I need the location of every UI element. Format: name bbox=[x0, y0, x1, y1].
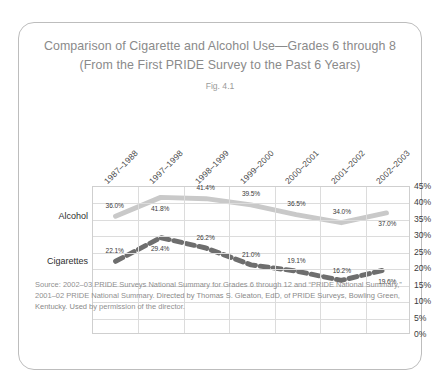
source-line-4: by permission of the director. bbox=[89, 302, 185, 311]
y-axis-tick-label: 45% bbox=[414, 181, 431, 191]
data-point-label: 22.1% bbox=[106, 247, 124, 254]
x-axis-tick-label: 1999–2000 bbox=[238, 148, 276, 186]
data-point-label: 16.2% bbox=[333, 266, 351, 273]
x-axis-labels: 1987–19881997–19981998–19991999–20002000… bbox=[74, 118, 410, 186]
data-point-label: 37.0% bbox=[378, 220, 396, 227]
data-point-label: 36.0% bbox=[106, 201, 124, 208]
series-label-alcohol: Alcohol bbox=[58, 211, 88, 221]
y-axis-tick-label: 5% bbox=[414, 313, 426, 323]
x-axis-tick-label: 1987–1988 bbox=[102, 148, 140, 186]
data-point-label: 41.4% bbox=[196, 183, 214, 190]
title-block: Comparison of Cigarette and Alcohol Use—… bbox=[19, 37, 421, 94]
data-point-label: 36.5% bbox=[287, 199, 305, 206]
gridline-horizontal bbox=[93, 203, 409, 204]
gridline-horizontal bbox=[93, 319, 409, 320]
x-axis-tick-label: 1997–1998 bbox=[147, 148, 185, 186]
source-line-1: Source: 2002–03 PRIDE Surveys National S… bbox=[35, 280, 334, 289]
y-axis-tick-label: 35% bbox=[414, 214, 431, 224]
chart-title-line-1: Comparison of Cigarette and Alcohol Use—… bbox=[19, 37, 421, 56]
figure-label: Fig. 4.1 bbox=[19, 79, 421, 94]
data-point-label: 39.5% bbox=[242, 190, 260, 197]
y-axis-tick-label: 25% bbox=[414, 247, 431, 257]
y-axis-tick-label: 40% bbox=[414, 197, 431, 207]
data-point-label: 41.8% bbox=[151, 204, 169, 211]
chart-title-line-2: (From the First PRIDE Survey to the Past… bbox=[19, 56, 421, 75]
y-axis-tick-label: 0% bbox=[414, 329, 426, 339]
gridline-horizontal bbox=[93, 269, 409, 270]
y-axis-tick-label: 30% bbox=[414, 230, 431, 240]
y-axis-tick-label: 20% bbox=[414, 263, 431, 273]
gridline-horizontal bbox=[93, 220, 409, 221]
data-point-label: 29.4% bbox=[151, 245, 169, 252]
x-axis-tick-label: 2002–2003 bbox=[374, 148, 412, 186]
data-point-label: 21.0% bbox=[242, 250, 260, 257]
y-axis-tick-label: 10% bbox=[414, 296, 431, 306]
x-axis-tick-label: 2001–2002 bbox=[329, 148, 367, 186]
data-point-label: 26.2% bbox=[196, 233, 214, 240]
source-note: Source: 2002–03 PRIDE Surveys National S… bbox=[35, 279, 407, 313]
x-axis-tick-label: 1998–1999 bbox=[192, 148, 230, 186]
data-point-label: 19.1% bbox=[287, 257, 305, 264]
gridline-horizontal bbox=[93, 236, 409, 237]
y-axis-tick-label: 15% bbox=[414, 280, 431, 290]
data-point-label: 34.0% bbox=[333, 208, 351, 215]
series-label-cigarettes: Cigarettes bbox=[47, 256, 88, 266]
chart-card: Comparison of Cigarette and Alcohol Use—… bbox=[18, 22, 422, 370]
x-axis-tick-label: 2000–2001 bbox=[283, 148, 321, 186]
